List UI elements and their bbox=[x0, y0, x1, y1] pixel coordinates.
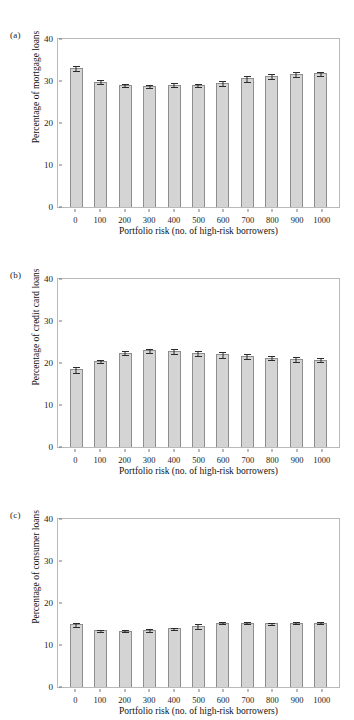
error-bar bbox=[149, 85, 150, 89]
x-tick: 600 bbox=[211, 689, 236, 707]
y-tick-label: 40 bbox=[44, 34, 58, 44]
x-tick-label: 600 bbox=[217, 695, 230, 705]
bar bbox=[70, 369, 83, 447]
bar-slot bbox=[186, 279, 210, 447]
bar-slot bbox=[211, 39, 235, 207]
y-axis-title-container-a: Percentage of mortgage loans bbox=[8, 30, 26, 210]
y-tick-label: 30 bbox=[44, 556, 58, 566]
error-bar bbox=[271, 623, 272, 626]
bar bbox=[143, 86, 156, 207]
bar-slot bbox=[88, 279, 112, 447]
bar-slot bbox=[64, 39, 88, 207]
y-axis-title-a: Percentage of mortgage loans bbox=[31, 7, 41, 167]
y-tick-label: 40 bbox=[44, 514, 58, 524]
chart-panel-b: (b) Percentage of credit card loans 0102… bbox=[0, 240, 354, 480]
error-bar bbox=[320, 622, 321, 625]
bar-slot bbox=[309, 279, 333, 447]
x-tick: 500 bbox=[186, 689, 211, 707]
error-bar bbox=[198, 624, 199, 630]
bar bbox=[168, 85, 181, 207]
x-tick: 500 bbox=[186, 449, 211, 467]
x-tick: 1000 bbox=[309, 209, 334, 227]
bar bbox=[241, 78, 254, 207]
bar-slot bbox=[284, 39, 308, 207]
x-tick-label: 100 bbox=[94, 695, 107, 705]
bar-slot bbox=[284, 519, 308, 687]
bar bbox=[241, 356, 254, 447]
x-tick-label: 400 bbox=[168, 215, 181, 225]
bar bbox=[192, 85, 205, 207]
bar bbox=[70, 624, 83, 687]
x-tick-label: 400 bbox=[168, 455, 181, 465]
bar-slot bbox=[260, 39, 284, 207]
x-axis-ticks-b: 01002003004005006007008009001000 bbox=[57, 449, 340, 467]
x-tick: 400 bbox=[162, 209, 187, 227]
bar bbox=[265, 358, 278, 447]
x-tick: 100 bbox=[88, 689, 113, 707]
bar bbox=[168, 628, 181, 687]
x-tick: 0 bbox=[63, 209, 88, 227]
error-bar bbox=[247, 354, 248, 361]
x-tick: 0 bbox=[63, 689, 88, 707]
error-bar bbox=[222, 352, 223, 359]
bar bbox=[94, 630, 107, 687]
x-tick-label: 1000 bbox=[313, 455, 330, 465]
error-bar bbox=[198, 351, 199, 357]
x-tick-label: 300 bbox=[143, 455, 156, 465]
x-tick-label: 200 bbox=[118, 455, 131, 465]
bar bbox=[143, 630, 156, 687]
error-bar bbox=[76, 623, 77, 628]
x-tick-label: 900 bbox=[291, 455, 304, 465]
bar-slot bbox=[309, 519, 333, 687]
bar bbox=[216, 83, 229, 207]
bar-slot bbox=[137, 519, 161, 687]
bar-slot bbox=[284, 279, 308, 447]
error-bar bbox=[296, 622, 297, 625]
error-bar bbox=[247, 622, 248, 625]
bar-slot bbox=[260, 519, 284, 687]
x-tick: 200 bbox=[112, 689, 137, 707]
error-bar bbox=[174, 83, 175, 88]
x-tick-label: 100 bbox=[94, 455, 107, 465]
bar bbox=[94, 361, 107, 447]
bar bbox=[314, 360, 327, 447]
error-bar bbox=[296, 357, 297, 363]
bar-slot bbox=[211, 279, 235, 447]
error-bar bbox=[125, 630, 126, 633]
bar-slot bbox=[260, 279, 284, 447]
bar-slot bbox=[113, 279, 137, 447]
x-tick: 600 bbox=[211, 209, 236, 227]
x-tick-label: 200 bbox=[118, 695, 131, 705]
error-bar bbox=[100, 630, 101, 633]
x-tick: 100 bbox=[88, 209, 113, 227]
y-tick-label: 10 bbox=[44, 640, 58, 650]
error-bar bbox=[222, 622, 223, 625]
bar bbox=[290, 623, 303, 687]
bar-slot bbox=[211, 519, 235, 687]
bar-slot bbox=[88, 39, 112, 207]
x-tick-label: 1000 bbox=[313, 695, 330, 705]
x-tick: 700 bbox=[235, 449, 260, 467]
error-bar bbox=[76, 66, 77, 72]
x-axis-ticks-c: 01002003004005006007008009001000 bbox=[57, 689, 340, 707]
x-tick: 400 bbox=[162, 449, 187, 467]
bar-slot bbox=[235, 39, 259, 207]
y-tick-label: 40 bbox=[44, 274, 58, 284]
x-tick: 900 bbox=[285, 449, 310, 467]
x-tick: 400 bbox=[162, 689, 187, 707]
error-bar bbox=[100, 80, 101, 85]
bar-slot bbox=[162, 39, 186, 207]
x-tick-label: 200 bbox=[118, 215, 131, 225]
bar-slot bbox=[64, 279, 88, 447]
bar-series-c bbox=[58, 519, 339, 687]
x-tick-label: 300 bbox=[143, 215, 156, 225]
plot-area-c: 010203040 bbox=[57, 518, 340, 688]
error-bar bbox=[100, 360, 101, 364]
error-bar bbox=[149, 349, 150, 353]
chart-panel-c: (c) Percentage of consumer loans 0102030… bbox=[0, 480, 354, 720]
x-tick-label: 700 bbox=[241, 695, 254, 705]
bar-slot bbox=[235, 519, 259, 687]
x-tick-label: 400 bbox=[168, 695, 181, 705]
x-axis-title-c: Portfolio risk (no. of high-risk borrowe… bbox=[57, 706, 340, 716]
bar bbox=[241, 623, 254, 687]
